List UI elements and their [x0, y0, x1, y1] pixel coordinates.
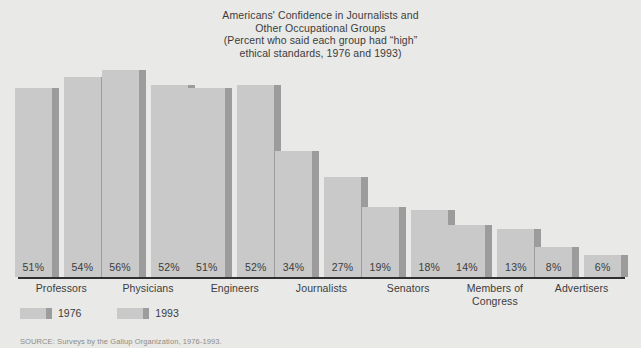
category-label-line: Professors — [15, 282, 108, 295]
plot-area: 51%54%56%52%51%52%34%27%19%18%14%13%8%6% — [18, 55, 625, 277]
bar[interactable]: 51% — [188, 88, 232, 277]
legend-swatch-shadow — [143, 308, 149, 319]
bar[interactable]: 6% — [584, 255, 628, 277]
category-label-line: Engineers — [188, 282, 281, 295]
category-axis-labels: ProfessorsPhysiciansEngineersJournalists… — [18, 282, 625, 310]
bar-value-label: 13% — [497, 261, 534, 273]
category-label: Members ofCongress — [448, 282, 541, 307]
bar-shadow — [621, 255, 628, 277]
bar-group: 8%6% — [535, 55, 628, 277]
bar-group: 51%54% — [15, 55, 108, 277]
bar[interactable]: 19% — [362, 207, 406, 277]
source-note: SOURCE: Surveys by the Gallup Organizati… — [20, 337, 222, 346]
bar[interactable]: 51% — [15, 88, 59, 277]
category-label: Professors — [15, 282, 108, 295]
bar-shadow — [312, 151, 319, 277]
category-label-line: Journalists — [275, 282, 368, 295]
legend-label-1976: 1976 — [58, 307, 81, 319]
bar-group: 19%18% — [362, 55, 455, 277]
bar[interactable]: 8% — [535, 247, 579, 277]
legend-label-1993: 1993 — [155, 307, 178, 319]
category-label-line: Senators — [362, 282, 455, 295]
category-label-line: Members of — [448, 282, 541, 295]
category-label: Journalists — [275, 282, 368, 295]
bar-shadow — [52, 88, 59, 277]
bar-group: 34%27% — [275, 55, 368, 277]
category-label-line: Congress — [448, 295, 541, 308]
bar-group: 14%13% — [448, 55, 541, 277]
bar-value-label: 52% — [237, 261, 274, 273]
bar-shadow — [485, 225, 492, 277]
bar-value-label: 51% — [188, 261, 225, 273]
category-label: Advertisers — [535, 282, 628, 295]
bar-value-label: 6% — [584, 261, 621, 273]
bar-value-label: 54% — [64, 261, 101, 273]
category-label: Physicians — [102, 282, 195, 295]
bar-value-label: 19% — [362, 261, 399, 273]
chart-legend: 1976 1993 — [20, 307, 215, 319]
bar[interactable]: 14% — [448, 225, 492, 277]
bar-shadow — [399, 207, 406, 277]
bar-value-label: 8% — [535, 261, 572, 273]
x-axis-line — [18, 277, 625, 279]
bar-group: 51%52% — [188, 55, 281, 277]
category-label-line: Advertisers — [535, 282, 628, 295]
bar[interactable]: 56% — [102, 70, 146, 277]
legend-swatch-shadow — [46, 308, 52, 319]
legend-swatch-1993 — [117, 308, 149, 319]
bar-value-label: 34% — [275, 261, 312, 273]
bar-shadow — [139, 70, 146, 277]
bar-value-label: 51% — [15, 261, 52, 273]
legend-swatch-1976 — [20, 308, 52, 319]
bar-value-label: 27% — [324, 261, 361, 273]
legend-item-1993[interactable]: 1993 — [117, 307, 178, 319]
chart-title-line-1: Americans' Confidence in Journalists and — [0, 9, 641, 22]
bar-group: 56%52% — [102, 55, 195, 277]
bar-shadow — [572, 247, 579, 277]
bar-value-label: 14% — [448, 261, 485, 273]
bar-value-label: 18% — [411, 261, 448, 273]
category-label: Engineers — [188, 282, 281, 295]
chart-title-line-2: Other Occupational Groups — [0, 22, 641, 35]
category-label-line: Physicians — [102, 282, 195, 295]
bar-value-label: 56% — [102, 261, 139, 273]
chart-title-line-3: (Percent who said each group had “high” — [0, 34, 641, 47]
chart-title: Americans' Confidence in Journalists and… — [0, 9, 641, 59]
bar[interactable]: 34% — [275, 151, 319, 277]
bar-shadow — [225, 88, 232, 277]
legend-item-1976[interactable]: 1976 — [20, 307, 81, 319]
category-label: Senators — [362, 282, 455, 295]
bar-value-label: 52% — [151, 261, 188, 273]
